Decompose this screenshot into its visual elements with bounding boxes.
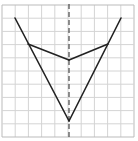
- symmetry-diagram: [0, 0, 138, 141]
- grid: [2, 5, 134, 137]
- figure-segment: [69, 18, 121, 121]
